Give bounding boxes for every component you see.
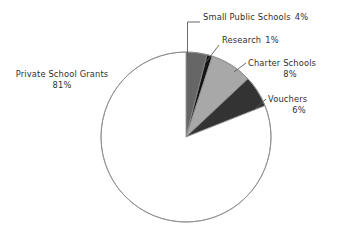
pie-label-value-small-public-schools: 4% — [295, 12, 308, 22]
leader-line-charter-schools — [234, 63, 246, 72]
pie-label-value-research: 1% — [265, 35, 278, 45]
pie-label-name-vouchers: Vouchers — [268, 94, 330, 105]
pie-chart: Small Public Schools4% Research1% Charte… — [0, 0, 340, 235]
pie-slice-group — [101, 52, 271, 222]
pie-label-value-vouchers: 6% — [268, 105, 330, 116]
pie-label-name-private-school-grants: Private School Grants — [8, 69, 116, 80]
pie-label-research: Research1% — [222, 35, 279, 46]
pie-label-private-school-grants: Private School Grants 81% — [8, 69, 116, 90]
pie-label-name-small-public-schools: Small Public Schools — [203, 12, 291, 22]
pie-label-value-private-school-grants: 81% — [8, 80, 116, 91]
pie-label-name-charter-schools: Charter Schools — [248, 58, 332, 69]
pie-label-name-research: Research — [222, 35, 261, 45]
pie-chart-canvas — [0, 0, 340, 235]
pie-label-value-charter-schools: 8% — [248, 69, 332, 80]
pie-label-vouchers: Vouchers 6% — [268, 94, 330, 115]
pie-label-small-public-schools: Small Public Schools4% — [203, 12, 308, 23]
pie-label-charter-schools: Charter Schools 8% — [248, 58, 332, 79]
